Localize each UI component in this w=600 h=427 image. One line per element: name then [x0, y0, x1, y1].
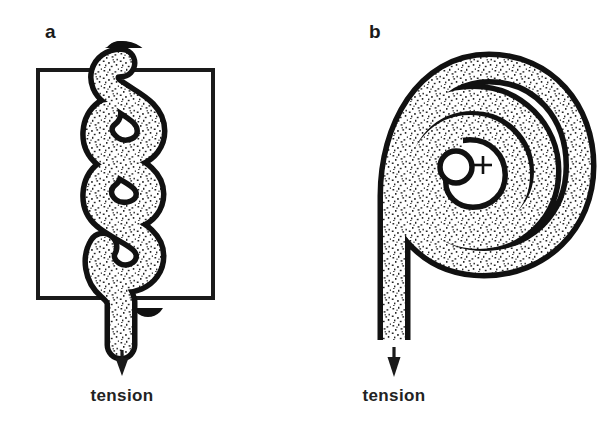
panel-a: a — [30, 21, 230, 405]
center-plus-icon — [474, 156, 492, 174]
panel-b: b tension — [362, 21, 580, 405]
panel-b-tension-label: tension — [362, 386, 425, 405]
panel-b-letter: b — [369, 21, 381, 42]
panel-b-core-loop — [440, 151, 472, 183]
arrow-head — [388, 357, 401, 377]
panel-b-fiber — [394, 68, 580, 340]
core-circle-outline — [440, 151, 472, 183]
panel-b-tension-arrow — [388, 347, 401, 377]
panel-a-strand — [30, 48, 230, 345]
arrow-head — [116, 358, 129, 376]
panel-a-letter: a — [45, 21, 56, 42]
panel-a-tension-label: tension — [90, 386, 153, 405]
figure-root: a — [0, 0, 600, 427]
figure-canvas: a — [0, 0, 600, 427]
